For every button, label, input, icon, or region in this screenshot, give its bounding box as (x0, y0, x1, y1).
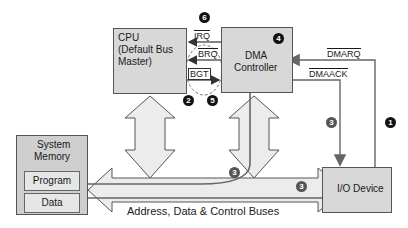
cpu-bus-arrow (125, 96, 175, 178)
step-badge-6: 6 (199, 12, 210, 23)
io-device-box: I/O Device (322, 167, 392, 213)
bus-label: Address, Data & Control Buses (127, 205, 279, 217)
step-badge-3-io: 3 (296, 181, 307, 192)
dmaack-signal-label: DMAACK (309, 68, 348, 79)
memory-title-2: Memory (34, 151, 70, 163)
irq-signal-label: IRQ (194, 30, 210, 41)
bgt-signal-label: BGT (188, 68, 211, 80)
step-badge-3-dmaack: 3 (326, 117, 337, 128)
program-segment: Program (24, 171, 80, 191)
cpu-label-3: Master) (118, 56, 152, 68)
cpu-label-1: CPU (118, 32, 139, 44)
brq-signal-label: BRQ (198, 48, 218, 59)
step-badge-3-memory: 3 (229, 167, 240, 178)
cpu-label-2: (Default Bus (118, 44, 173, 56)
io-device-label: I/O Device (337, 183, 384, 195)
memory-title-1: System (37, 139, 70, 151)
step-badge-4: 4 (273, 33, 284, 44)
step-badge-5: 5 (207, 95, 218, 106)
cpu-box: CPU (Default Bus Master) (113, 28, 187, 94)
dmarq-signal-label: DMARQ (327, 48, 361, 59)
system-memory-box: System Memory Program Data (16, 135, 88, 215)
dma-label-2: Controller (234, 62, 277, 74)
data-segment: Data (24, 193, 80, 213)
step-badge-1: 1 (385, 117, 396, 128)
dma-label-1: DMA (245, 50, 267, 62)
step-badge-2: 2 (183, 95, 194, 106)
dma-bus-arrow (229, 96, 279, 178)
